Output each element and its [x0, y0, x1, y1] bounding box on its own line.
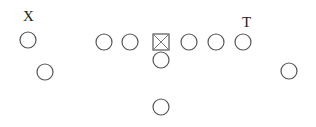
player-center [153, 34, 169, 50]
formation-diagram: X T [0, 0, 316, 127]
label-t: T [242, 14, 251, 30]
player-right-tackle [208, 34, 224, 50]
player-left-tackle [96, 34, 112, 50]
player-right-guard [181, 34, 197, 50]
player-quarterback [153, 52, 169, 68]
player-left-guard [122, 34, 138, 50]
player-tight-end [235, 34, 251, 50]
label-x: X [23, 8, 34, 24]
player-x-receiver [20, 32, 36, 48]
player-flanker [281, 63, 297, 79]
player-slot-back [37, 64, 53, 80]
player-running-back [153, 99, 169, 115]
